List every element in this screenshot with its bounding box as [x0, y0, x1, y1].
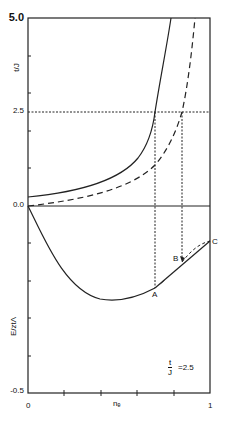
y-axis-label-lower: E/ztΛ: [9, 317, 18, 336]
point-label-b: B: [173, 254, 178, 263]
annotation-value: =2.5: [178, 363, 194, 372]
annotation-denominator: J: [168, 368, 172, 377]
solid-curve-upper: [28, 18, 171, 197]
point-label-a: A: [152, 290, 157, 299]
annotation-numerator: t: [168, 358, 172, 368]
point-label-c: C: [212, 237, 218, 246]
y-tick-neg-0-5: -0.5: [0, 386, 24, 395]
annotation-fraction: t J: [168, 358, 172, 377]
y-tick-2-5: 2.5: [0, 106, 24, 115]
phase-diagram-chart: [0, 0, 230, 422]
x-tick-0: 0: [26, 401, 30, 410]
energy-curve: [28, 206, 155, 300]
y-tick-0-0: 0.0: [0, 200, 24, 209]
y-tick-5-0: 5.0: [0, 11, 24, 23]
x-tick-1: 1: [208, 401, 212, 410]
y-axis-label-upper: t/J: [12, 63, 21, 71]
x-axis-label: nₑ: [113, 399, 120, 408]
